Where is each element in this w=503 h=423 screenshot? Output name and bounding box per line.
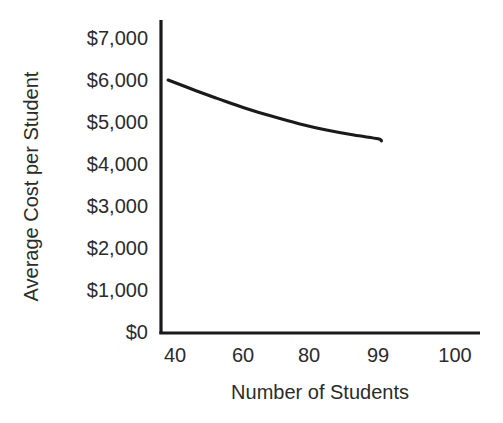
x-tick-label-99: 99 [367,345,389,365]
cost-curve [168,80,381,141]
axis-lines [159,20,480,334]
y-tick-label: $4,000 [87,154,148,174]
y-tick-label: $5,000 [87,112,148,132]
x-tick-label-40: 40 [164,345,186,365]
y-tick-label: $0 [126,322,148,342]
x-axis-title: Number of Students [160,381,480,404]
y-axis-title: Average Cost per Student [20,37,43,337]
y-tick-label: $7,000 [87,28,148,48]
y-tick-label: $2,000 [87,238,148,258]
chart-container: $7,000 $6,000 $5,000 $4,000 $3,000 $2,00… [0,0,503,423]
y-tick-label: $1,000 [87,280,148,300]
x-tick-label-80: 80 [298,345,320,365]
y-tick-label: $3,000 [87,196,148,216]
x-tick-label-100: 100 [438,345,471,365]
y-tick-label: $6,000 [87,70,148,90]
x-tick-label-60: 60 [232,345,254,365]
